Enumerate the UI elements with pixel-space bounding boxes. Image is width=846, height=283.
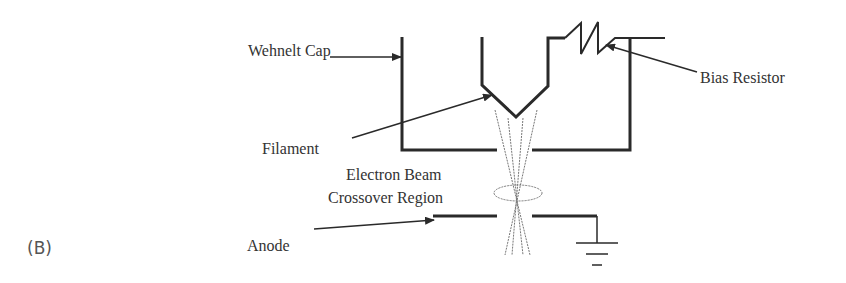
panel-label: (B) bbox=[27, 238, 52, 258]
bias-resistor-arrow bbox=[606, 45, 697, 72]
crossover-region-ellipse bbox=[494, 185, 542, 201]
bias-resistor bbox=[565, 22, 665, 54]
wehnelt-cap-label: Wehnelt Cap bbox=[248, 43, 331, 59]
wehnelt-cap bbox=[402, 37, 630, 150]
electron-gun-diagram bbox=[0, 0, 846, 283]
bias-resistor-label: Bias Resistor bbox=[700, 70, 785, 86]
electron-beam bbox=[495, 110, 537, 255]
anode-label: Anode bbox=[247, 238, 290, 254]
ground-icon bbox=[576, 216, 618, 265]
filament bbox=[482, 37, 565, 117]
crossover-label-line1: Electron Beam bbox=[346, 167, 442, 183]
crossover-label-line2: Crossover Region bbox=[328, 190, 443, 206]
filament-label: Filament bbox=[262, 141, 319, 157]
anode-arrow bbox=[314, 220, 434, 229]
filament-arrow bbox=[352, 95, 492, 138]
